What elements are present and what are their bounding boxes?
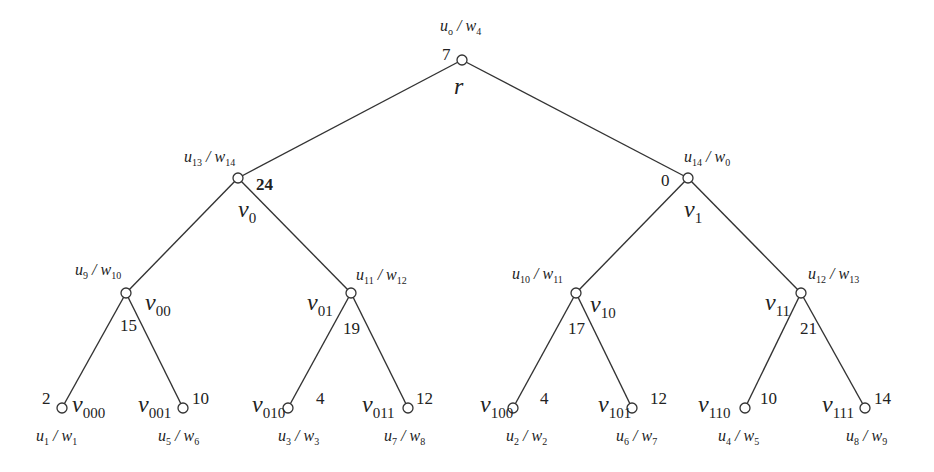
uw-label-v00: u9 / w10: [75, 262, 121, 281]
node-name-v00: v00: [145, 290, 171, 319]
uw-label-v001: u5 / w6: [158, 428, 199, 447]
node-name-v000: v000: [72, 392, 105, 421]
uw-label-v100: u2 / w2: [506, 428, 547, 447]
weight-r: 7: [442, 46, 451, 63]
node-v1: [683, 173, 693, 183]
node-name-v011: v011: [362, 392, 395, 421]
node-v01: [346, 288, 356, 298]
node-name-v101: v101: [598, 392, 631, 421]
weight-v010: 4: [316, 390, 325, 407]
node-v11: [796, 288, 806, 298]
node-v001: [178, 403, 188, 413]
node-name-v111: v111: [822, 392, 854, 421]
weight-v11: 21: [800, 320, 817, 337]
node-name-v11: v11: [765, 290, 790, 319]
node-name-v1: v1: [684, 197, 702, 226]
uw-label-v11: u12 / w13: [808, 266, 859, 285]
node-name-v10: v10: [590, 292, 616, 321]
uw-label-v011: u7 / w8: [384, 428, 425, 447]
uw-label-v010: u3 / w3: [278, 428, 319, 447]
node-name-v0: v0: [238, 197, 256, 226]
node-name-v110: v110: [698, 392, 731, 421]
weight-v100: 4: [540, 390, 549, 407]
node-v011: [403, 403, 413, 413]
weight-v1: 0: [661, 172, 670, 189]
node-v110: [740, 403, 750, 413]
uw-label-v1: u14 / w0: [684, 149, 730, 168]
node-v00: [121, 288, 131, 298]
node-v111: [860, 403, 870, 413]
node-v000: [57, 403, 67, 413]
node-name-v01: v01: [307, 290, 333, 319]
weight-v00: 15: [120, 317, 137, 334]
weight-v10: 17: [568, 320, 585, 337]
nodes: [57, 55, 870, 413]
weight-v01: 19: [343, 320, 360, 337]
weight-v011: 12: [416, 390, 433, 407]
node-r: [457, 55, 467, 65]
uw-label-r: uo / w4: [440, 18, 481, 37]
edges: [62, 60, 865, 408]
uw-label-v01: u11 / w12: [356, 267, 407, 286]
weight-v110: 10: [760, 390, 777, 407]
weight-v111: 14: [874, 390, 891, 407]
uw-label-v101: u6 / w7: [616, 428, 657, 447]
weight-v001: 10: [192, 390, 209, 407]
node-name-v001: v001: [138, 392, 171, 421]
weight-v0: 24: [256, 176, 273, 193]
node-name-r: r: [454, 74, 463, 98]
node-name-v010: v010: [252, 392, 285, 421]
weight-v000: 2: [42, 390, 51, 407]
uw-label-v0: u13 / w14: [184, 149, 235, 168]
weight-v101: 12: [650, 390, 667, 407]
uw-label-v000: u1 / w1: [36, 428, 77, 447]
uw-label-v111: u8 / w9: [846, 428, 887, 447]
node-v0: [233, 173, 243, 183]
node-v10: [571, 288, 581, 298]
uw-label-v10: u10 / w11: [512, 266, 563, 285]
uw-label-v110: u4 / w5: [718, 428, 759, 447]
node-name-v100: v100: [480, 392, 513, 421]
